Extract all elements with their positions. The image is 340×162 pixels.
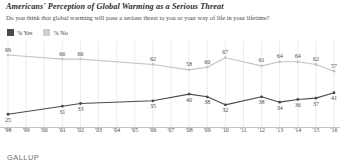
- chart-header: Americans' Perception of Global Warming …: [6, 2, 336, 22]
- data-point-label: 34: [277, 105, 283, 111]
- data-point[interactable]: [314, 97, 317, 100]
- data-point-label: 61: [259, 57, 265, 63]
- data-point-label: 31: [59, 109, 65, 115]
- x-axis-tick-label: '04: [113, 127, 120, 133]
- data-point-label: 40: [186, 97, 192, 103]
- chart-legend: % Yes % No: [7, 29, 68, 36]
- data-point[interactable]: [333, 70, 336, 73]
- legend-item-no[interactable]: % No: [43, 29, 67, 36]
- x-axis-tick-label: '08: [186, 127, 193, 133]
- data-point[interactable]: [296, 60, 299, 63]
- data-point-label: 64: [295, 53, 301, 59]
- x-axis-tick-label: '14: [294, 127, 301, 133]
- x-axis-tick-label: '11: [240, 127, 247, 133]
- gallup-logo: GALLUP: [7, 153, 39, 162]
- x-axis-tick-label: '98: [5, 127, 12, 133]
- data-point[interactable]: [224, 56, 227, 59]
- data-point[interactable]: [151, 63, 154, 66]
- data-point[interactable]: [7, 54, 10, 57]
- x-axis-tick-label: '01: [59, 127, 66, 133]
- data-point-label: 66: [77, 51, 83, 57]
- x-axis-tick-label: '00: [41, 127, 48, 133]
- data-point-label: 25: [5, 117, 11, 123]
- legend-swatch-no-icon: [43, 29, 50, 36]
- x-axis-tick-label: '03: [95, 127, 102, 133]
- data-point[interactable]: [333, 91, 336, 94]
- data-point-label: 58: [186, 61, 192, 67]
- data-point-label: 62: [313, 56, 319, 62]
- data-point-label: 37: [313, 101, 319, 107]
- x-axis-tick-label: '12: [258, 127, 265, 133]
- data-point[interactable]: [151, 99, 154, 102]
- x-axis-labels: '98'99'00'01'02'03'04'05'06'07'08'09'10'…: [0, 127, 340, 139]
- data-point-label: 33: [77, 106, 83, 112]
- x-axis-tick-label: '99: [23, 127, 30, 133]
- data-point-label: 35: [150, 103, 156, 109]
- data-point[interactable]: [79, 102, 82, 105]
- data-point-label: 38: [204, 99, 210, 105]
- data-point-label: 69: [5, 47, 11, 53]
- data-point[interactable]: [278, 101, 281, 104]
- x-axis-tick-label: '07: [168, 127, 175, 133]
- legend-swatch-yes-icon: [7, 29, 14, 36]
- legend-item-yes[interactable]: % Yes: [7, 29, 32, 36]
- x-axis-tick-label: '15: [312, 127, 319, 133]
- plot-area: 696666625860676164646257 253133354038323…: [0, 41, 340, 133]
- x-axis-tick-label: '06: [149, 127, 156, 133]
- data-point-label: 64: [277, 53, 283, 59]
- data-point-label: 32: [222, 107, 228, 113]
- data-point[interactable]: [206, 66, 209, 69]
- data-point[interactable]: [188, 68, 191, 71]
- data-point[interactable]: [260, 95, 263, 98]
- gridlines-group: [8, 41, 334, 127]
- data-point-label: 62: [150, 56, 156, 62]
- data-point[interactable]: [7, 113, 10, 116]
- legend-label-no: % No: [53, 29, 67, 36]
- x-axis-tick-label: '05: [131, 127, 138, 133]
- x-axis-tick-label: '16: [331, 127, 338, 133]
- legend-label-yes: % Yes: [17, 29, 32, 36]
- chart-subtitle: Do you think that global warming will po…: [6, 13, 336, 22]
- data-point-label: 41: [331, 95, 337, 101]
- data-point[interactable]: [224, 103, 227, 106]
- data-point[interactable]: [206, 95, 209, 98]
- line-chart-svg: 696666625860676164646257 253133354038323…: [0, 41, 340, 133]
- chart-title: Americans' Perception of Global Warming …: [6, 2, 336, 12]
- data-point-label: 36: [295, 102, 301, 108]
- chart-footer: GALLUP: [7, 146, 39, 162]
- data-point-label: 66: [59, 51, 65, 57]
- data-point[interactable]: [61, 105, 64, 108]
- data-point[interactable]: [79, 58, 82, 61]
- x-axis-tick-label: '13: [276, 127, 283, 133]
- data-point[interactable]: [296, 98, 299, 101]
- data-point[interactable]: [260, 64, 263, 67]
- data-point[interactable]: [188, 93, 191, 96]
- data-point-label: 57: [331, 63, 337, 69]
- x-axis-tick-label: '10: [222, 127, 229, 133]
- x-axis-tick-label: '09: [204, 127, 211, 133]
- x-axis-tick-label: '02: [77, 127, 84, 133]
- data-point[interactable]: [314, 63, 317, 66]
- data-point[interactable]: [61, 58, 64, 61]
- data-point[interactable]: [278, 60, 281, 63]
- data-point-label: 60: [204, 59, 210, 65]
- data-point-label: 38: [259, 99, 265, 105]
- chart-root: Americans' Perception of Global Warming …: [0, 0, 340, 162]
- data-point-label: 67: [222, 49, 228, 55]
